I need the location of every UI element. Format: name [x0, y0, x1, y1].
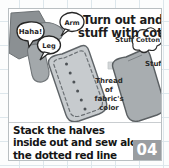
card-caption: Stack the halves inside out and sew alon… — [9, 122, 161, 161]
page-background: Haha! Arm Leg — [0, 0, 169, 168]
instruction-card: Haha! Arm Leg — [8, 8, 162, 161]
card-title: Turn out and stuff with cotton — [81, 14, 161, 39]
thread-label-line4: color — [99, 104, 119, 112]
thread-label-line1: Thread — [95, 77, 123, 85]
stuff-right-label: Stuff — [145, 60, 161, 68]
haha-bubble-label: Haha! — [19, 28, 42, 36]
thread-label-line3: fabric's — [94, 95, 123, 103]
leg-bubble-label: Leg — [42, 42, 56, 50]
thread-label-line2: of — [105, 86, 114, 94]
caption-line1: Stack the halves — [9, 123, 161, 136]
step-number-badge: 04 — [133, 140, 161, 161]
thread-color-label: Thread of fabric's color — [94, 77, 123, 112]
card-title-line2: stuff with cotton — [78, 27, 161, 40]
card-title-line1: Turn out and — [83, 14, 161, 27]
